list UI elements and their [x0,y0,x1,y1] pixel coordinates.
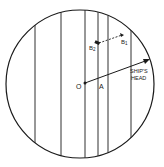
origin-point [84,82,87,85]
label-a: A [99,83,104,90]
meridian-lines [35,0,131,167]
label-ships-head-2: HEAD [131,75,146,81]
b2-marker [94,40,100,45]
compass-diagram: O A B1 B2 SHIP'S HEAD [0,0,164,167]
arrow-head-icon [143,59,150,64]
b1-arrow-icon [120,33,124,37]
label-origin: O [76,83,82,90]
label-b2: B2 [89,45,96,52]
label-b1: B1 [121,39,128,46]
label-ships-head-1: SHIP'S [130,68,148,74]
b1-b2-dashed [99,35,122,43]
